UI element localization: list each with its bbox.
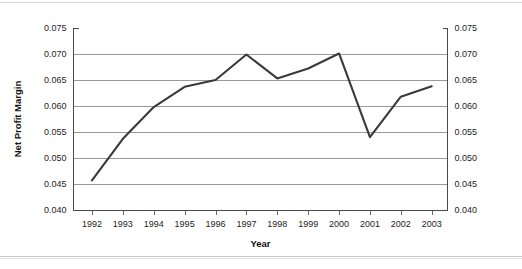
y-tick-label-right: 0.045 (455, 179, 478, 189)
x-tick-label: 2001 (360, 219, 380, 229)
y-tick-label-right: 0.050 (455, 153, 478, 163)
gridlines (74, 29, 448, 211)
chart-page: 0.0750.0700.0650.0600.0550.0500.0450.040… (0, 0, 522, 269)
y-tick-label-right: 0.065 (455, 75, 478, 85)
y-tick-label-left: 0.050 (44, 153, 67, 163)
y-tick-label-left: 0.040 (44, 205, 67, 215)
x-tick-label: 2003 (422, 219, 442, 229)
y-tick-label-right: 0.070 (455, 49, 478, 59)
x-tick-label: 1998 (267, 219, 287, 229)
x-tick-label: 1999 (298, 219, 318, 229)
x-tick-label: 2002 (391, 219, 411, 229)
y-tick-labels-left: 0.0750.0700.0650.0600.0550.0500.0450.040 (44, 23, 67, 215)
x-tick-label: 1996 (205, 219, 225, 229)
x-tick-label: 1995 (175, 219, 195, 229)
y-tick-label-left: 0.075 (44, 23, 67, 33)
x-tick-marks (93, 211, 433, 215)
x-tick-label: 1993 (113, 219, 133, 229)
y-tick-label-left: 0.060 (44, 101, 67, 111)
x-tick-label: 1992 (82, 219, 102, 229)
y-tick-label-right: 0.075 (455, 23, 478, 33)
y-tick-label-left: 0.045 (44, 179, 67, 189)
net-profit-margin-line-chart: 0.0750.0700.0650.0600.0550.0500.0450.040… (0, 0, 522, 269)
y-tick-label-left: 0.070 (44, 49, 67, 59)
x-axis-title: Year (250, 238, 270, 249)
x-tick-label: 1997 (236, 219, 256, 229)
y-tick-label-right: 0.060 (455, 101, 478, 111)
y-tick-label-left: 0.065 (44, 75, 67, 85)
y-tick-label-right: 0.040 (455, 205, 478, 215)
y-tick-label-right: 0.055 (455, 127, 478, 137)
x-tick-labels: 1992199319941995199619971998199920002001… (82, 219, 442, 229)
y-axis-title: Net Profit Margin (12, 81, 23, 158)
y-tick-label-left: 0.055 (44, 127, 67, 137)
x-tick-label: 1994 (144, 219, 164, 229)
net-profit-margin-series-line (92, 53, 432, 180)
x-tick-label: 2000 (329, 219, 349, 229)
y-tick-labels-right: 0.0750.0700.0650.0600.0550.0500.0450.040 (455, 23, 478, 215)
